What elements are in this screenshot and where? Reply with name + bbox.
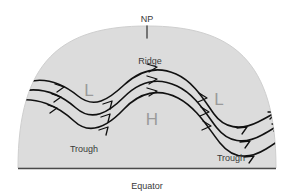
trough-right-label: Trough [217,153,245,163]
hemisphere-dome [18,26,276,168]
ridge-label: Ridge [138,56,162,66]
low-left-label: L [84,81,93,100]
trough-left-label: Trough [70,144,98,154]
low-right-label: L [214,90,223,109]
rossby-wave-diagram: NP Ridge Trough Trough L L H Equator [0,0,294,193]
streamline-3-arrow-6 [276,136,285,143]
north-pole-label: NP [141,14,154,24]
diagram-canvas: NP Ridge Trough Trough L L H Equator [0,0,294,193]
dome-shape [18,26,276,168]
high-center-label: H [146,110,158,129]
equator-label: Equator [131,181,163,191]
